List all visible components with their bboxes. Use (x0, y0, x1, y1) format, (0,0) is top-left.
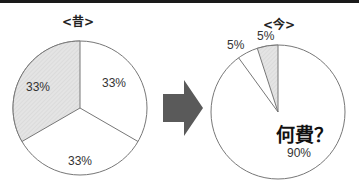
right-label-main: 90% (287, 146, 311, 160)
right-label-top-shaded: 5% (257, 29, 274, 43)
right-annotation: 何費？ (276, 120, 333, 147)
pie-right (211, 45, 345, 179)
left-label-right: 33% (102, 76, 126, 90)
right-label-top: 5% (227, 38, 244, 52)
left-chart-title: <昔> (62, 12, 94, 29)
left-label-left: 33% (26, 80, 50, 94)
left-label-bottom: 33% (68, 154, 92, 168)
arrow-icon (163, 80, 203, 136)
charts-canvas (0, 0, 359, 193)
